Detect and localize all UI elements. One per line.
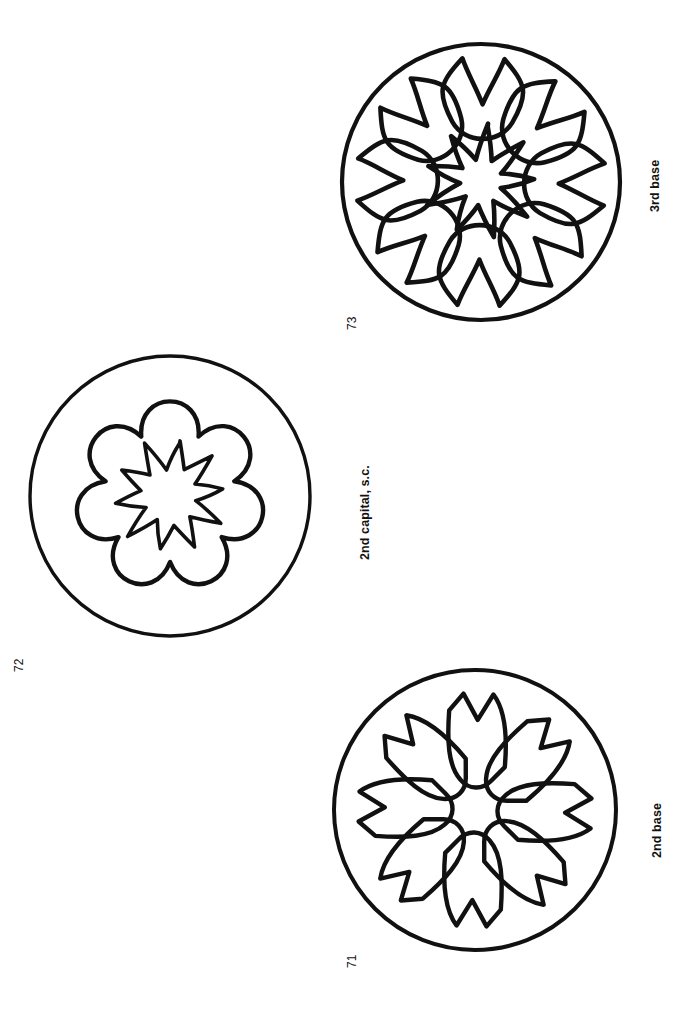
ornament-stroke xyxy=(486,720,570,801)
figure-72-drawing xyxy=(24,348,320,644)
outer-circle xyxy=(30,356,310,636)
ornament-stroke xyxy=(484,821,565,905)
star-center xyxy=(116,441,223,549)
petal-ring xyxy=(357,58,604,305)
petal-ring xyxy=(359,694,592,927)
star-center xyxy=(427,124,534,237)
figure-72-caption: 2nd capital, s.c. xyxy=(358,465,372,560)
ornament-stroke xyxy=(359,779,453,837)
figure-72 xyxy=(24,348,320,644)
lobed-flower xyxy=(77,401,263,584)
plate-page: 3rd base 73 2nd capital, s.c. 72 2nd bas… xyxy=(0,0,689,1036)
ornament-stroke xyxy=(380,819,464,900)
figure-73 xyxy=(336,38,626,328)
figure-72-number: 72 xyxy=(12,659,26,672)
figure-71-number: 71 xyxy=(345,955,359,968)
outer-circle xyxy=(342,44,620,320)
figure-71-drawing xyxy=(330,665,625,960)
ornament-stroke xyxy=(448,694,506,788)
figure-73-number: 73 xyxy=(345,317,359,330)
ornament-stroke xyxy=(385,715,466,799)
figure-71 xyxy=(330,665,625,960)
ornament-stroke xyxy=(497,783,591,841)
figure-71-caption: 2nd base xyxy=(650,803,664,858)
figure-73-drawing xyxy=(336,38,626,328)
figure-73-caption: 3rd base xyxy=(648,160,662,212)
ornament-stroke xyxy=(444,832,502,926)
